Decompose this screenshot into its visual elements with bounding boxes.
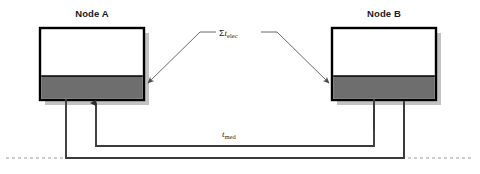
node-b-gray-band (333, 76, 435, 99)
subscript-elec: elec (227, 32, 237, 39)
label-t-med: tmed (222, 129, 236, 139)
leader-line-elec-left-diagonal (148, 32, 200, 83)
node-a-title: Node A (40, 8, 144, 19)
label-sum-t-elec: Σtelec (219, 28, 238, 38)
diagram-vector-layer (0, 0, 480, 174)
node-b-title: Node B (332, 8, 436, 19)
leader-line-elec-right-diagonal (277, 32, 329, 83)
subscript-med: med (225, 133, 236, 140)
node-a-gray-band (41, 76, 143, 99)
diagram-canvas: Node A Node B Σtelec tmed (0, 0, 480, 174)
